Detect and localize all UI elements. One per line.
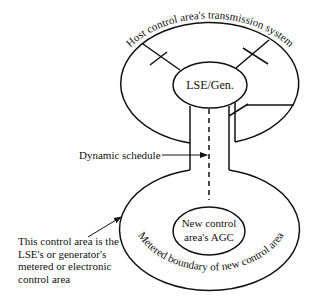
note-line-4: control area <box>18 273 70 285</box>
branch-right-crossbar <box>243 48 268 64</box>
lse-gen-label: LSE/Gen. <box>186 78 234 92</box>
host-system-label: Host control area's transmission system <box>123 8 296 49</box>
note-arrow <box>88 217 121 237</box>
note-line-3: metered or electronic <box>18 260 112 272</box>
note-line-1: This control area is the <box>18 235 119 247</box>
new-agc-label-line1: New control <box>182 217 237 229</box>
diagram-canvas: LSE/Gen. Dynamic schedule New control ar… <box>0 0 314 302</box>
note-line-2: LSE's or generator's <box>18 248 106 260</box>
dynamic-schedule-label: Dynamic schedule <box>79 149 161 161</box>
tie-diagonal <box>229 104 248 116</box>
new-agc-label-line2: area's AGC <box>184 231 234 243</box>
